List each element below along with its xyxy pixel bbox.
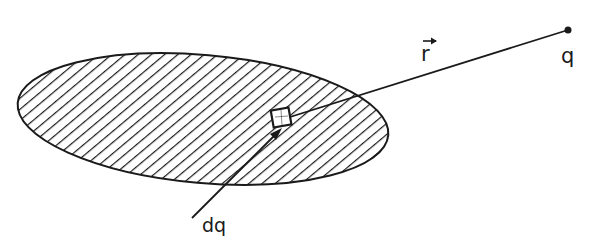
charge-element-label: dq	[202, 214, 226, 236]
svg-text:r: r	[421, 42, 430, 66]
point-charge-label: q	[561, 44, 574, 68]
charge-distribution-region	[12, 39, 394, 199]
diagram-canvas: r q dq	[0, 0, 598, 252]
position-vector-label: r	[421, 38, 437, 67]
point-charge-dot	[565, 27, 572, 34]
charge-element-box	[271, 108, 292, 128]
